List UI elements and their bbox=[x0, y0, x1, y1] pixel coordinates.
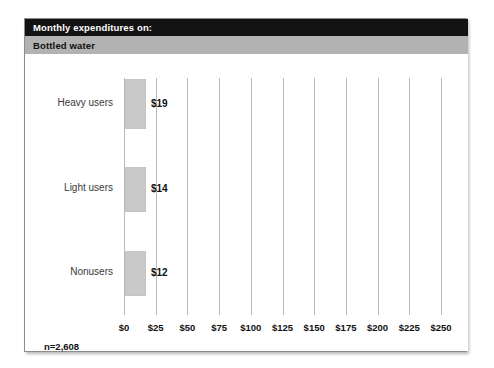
gridline bbox=[378, 78, 379, 315]
card-subtitle-bar: Bottled water bbox=[25, 36, 468, 54]
x-tick-label: $50 bbox=[179, 322, 195, 333]
bar-value-label: $12 bbox=[151, 267, 168, 278]
gridline bbox=[409, 78, 410, 315]
bar bbox=[125, 167, 146, 212]
bar-value-label: $14 bbox=[151, 183, 168, 194]
x-tick-label: $150 bbox=[304, 322, 325, 333]
chart-card-panel: Monthly expenditures on: Bottled water $… bbox=[24, 18, 467, 352]
category-label: Nonusers bbox=[25, 266, 113, 277]
gridline bbox=[251, 78, 252, 315]
card-title-bar: Monthly expenditures on: bbox=[25, 19, 468, 36]
x-tick-label: $0 bbox=[119, 322, 130, 333]
x-tick-label: $75 bbox=[211, 322, 227, 333]
x-tick-label: $250 bbox=[430, 322, 451, 333]
x-tick-label: $125 bbox=[272, 322, 293, 333]
gridline bbox=[441, 78, 442, 315]
gridline bbox=[156, 78, 157, 315]
x-tick-label: $225 bbox=[399, 322, 420, 333]
bar bbox=[125, 251, 146, 296]
chart-plot-body: $19$14$12 Heavy usersLight usersNonusers… bbox=[25, 54, 468, 351]
bar-value-label: $19 bbox=[151, 98, 168, 109]
card-subtitle: Bottled water bbox=[33, 40, 95, 51]
gridline bbox=[283, 78, 284, 315]
gridline bbox=[314, 78, 315, 315]
chart-plot-area: $19$14$12 bbox=[124, 78, 441, 315]
category-label: Light users bbox=[25, 182, 113, 193]
gridline bbox=[346, 78, 347, 315]
gridline bbox=[219, 78, 220, 315]
gridline bbox=[187, 78, 188, 315]
category-label: Heavy users bbox=[25, 97, 113, 108]
x-tick-label: $25 bbox=[148, 322, 164, 333]
bar bbox=[125, 79, 146, 129]
chart-screenshot: Monthly expenditures on: Bottled water $… bbox=[0, 0, 494, 368]
page-title: Monthly expenditures on: bbox=[33, 22, 152, 33]
x-tick-label: $100 bbox=[240, 322, 261, 333]
x-tick-label: $200 bbox=[367, 322, 388, 333]
x-tick-label: $175 bbox=[335, 322, 356, 333]
sample-size-annotation: n=2,608 bbox=[44, 341, 79, 352]
